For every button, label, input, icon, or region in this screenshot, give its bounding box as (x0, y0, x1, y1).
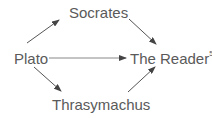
diagram: Socrates Plato The Reader5 Thrasymachus (0, 0, 212, 118)
node-label: Socrates (69, 4, 128, 21)
edge-plato-thrasymachus (34, 67, 61, 91)
node-reader: The Reader5 (130, 51, 212, 66)
node-label: The Reader (130, 50, 209, 67)
node-label: Thrasymachus (52, 96, 150, 113)
node-label: Plato (14, 50, 48, 67)
node-plato: Plato (14, 51, 48, 66)
edge-socrates-reader (129, 19, 156, 44)
node-socrates: Socrates (69, 5, 128, 20)
node-thrasymachus: Thrasymachus (52, 97, 150, 112)
edge-thrasymachus-reader (128, 67, 155, 92)
edge-plato-socrates (27, 20, 59, 43)
footnote-marker: 5 (209, 50, 212, 57)
